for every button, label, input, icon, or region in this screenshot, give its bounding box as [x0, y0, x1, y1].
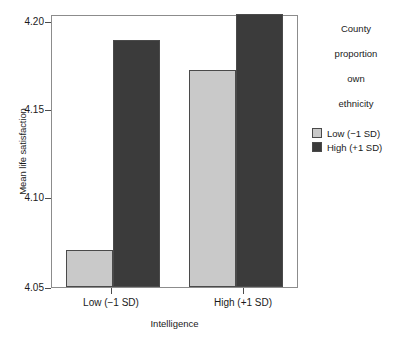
y-tick-label-405: 4.05 [12, 283, 44, 293]
legend-item-low-proportion[interactable]: Low (−1 SD) [312, 128, 404, 139]
legend-title-line-4: ethnicity [308, 98, 404, 111]
x-tick-mark-group-low [111, 288, 112, 294]
x-tick-label-high: High (+1 SD) [214, 297, 272, 308]
legend-title-line-1: County [308, 23, 404, 36]
bar-high-intelligence-high-proportion [236, 14, 283, 287]
y-tick-label-420: 4.20 [12, 17, 44, 27]
legend-title: County proportion own ethnicity [308, 10, 404, 123]
y-tick-mark-405 [45, 288, 51, 289]
legend-label-high: High (+1 SD) [327, 142, 382, 153]
y-tick-label-410: 4.10 [12, 193, 44, 203]
x-axis-title: Intelligence [51, 318, 298, 329]
bar-high-intelligence-low-proportion [189, 70, 236, 287]
y-tick-label-415: 4.15 [12, 105, 44, 115]
legend-swatch-icon-high [312, 142, 322, 152]
legend-items: Low (−1 SD) High (+1 SD) [308, 128, 404, 153]
x-tick-label-low: Low (−1 SD) [83, 297, 139, 308]
x-tick-mark-group-high [243, 288, 244, 294]
plot-area [51, 15, 298, 288]
bar-low-intelligence-low-proportion [66, 250, 113, 287]
bars-container [52, 16, 297, 287]
bar-chart-figure: Mean life satisfaction 4.20 4.15 4.10 4.… [0, 0, 406, 340]
legend-title-line-3: own [308, 73, 404, 86]
y-axis-tick-labels: 4.20 4.15 4.10 4.05 [12, 0, 44, 340]
legend-label-low: Low (−1 SD) [327, 128, 380, 139]
legend-item-high-proportion[interactable]: High (+1 SD) [312, 142, 404, 153]
bar-low-intelligence-high-proportion [113, 40, 160, 287]
legend: County proportion own ethnicity Low (−1 … [308, 10, 404, 156]
legend-title-line-2: proportion [308, 48, 404, 61]
legend-swatch-icon-low [312, 128, 322, 138]
